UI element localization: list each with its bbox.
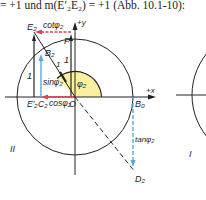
label-phi: φ₂ — [77, 79, 87, 89]
label-one-right: 1 — [64, 55, 69, 65]
f-arrow — [69, 34, 73, 41]
label-one-left: 1 — [27, 71, 32, 81]
label-b0: B₀ — [135, 99, 145, 109]
label-c2: C₂ — [38, 99, 48, 109]
label-e2: E₂ — [27, 21, 37, 32]
label-d2: D₂ — [135, 174, 145, 184]
label-quadrant-i: I — [189, 149, 192, 159]
tan-arrow — [131, 160, 136, 167]
label-b2: B₂ — [45, 48, 55, 58]
label-origin: O — [69, 99, 76, 109]
label-cot: cotφ₂ — [43, 20, 64, 30]
label-sin: sinφ₂ — [43, 77, 63, 87]
radius-extension-dashed — [75, 97, 135, 172]
unit-circle-diagram: E₂ cotφ₂ +y F 1 B₂ 1 1 sinφ₂ φ₂ E′₂ C₂ c… — [0, 0, 206, 200]
label-y-axis: +y — [77, 18, 87, 27]
sin-arrow — [39, 54, 44, 61]
label-tan: tanφ₂ — [135, 135, 154, 144]
label-e2-prime: E′₂ — [27, 99, 38, 109]
label-x-axis: +x — [146, 86, 156, 95]
label-f: F — [64, 36, 70, 46]
label-quadrant-ii: II — [10, 144, 16, 154]
x-axis-arrow — [148, 95, 156, 100]
label-b2-one: 1 — [56, 60, 60, 69]
